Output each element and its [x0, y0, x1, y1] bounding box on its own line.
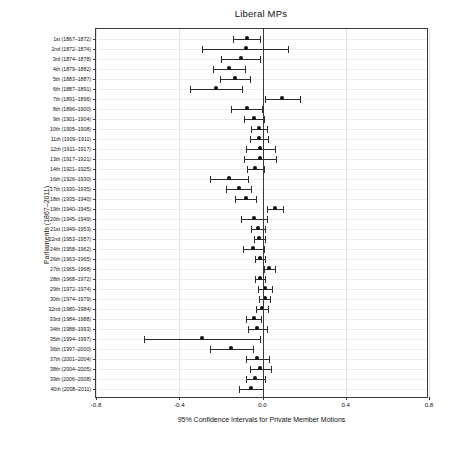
y-axis-tick-label: 3rd (1874–1878) [53, 56, 91, 62]
y-axis-tick [93, 309, 96, 310]
y-axis-tick-label: 1st (1867–1872) [53, 36, 91, 42]
ci-cap-upper [300, 96, 301, 103]
estimate-point-marker [273, 206, 277, 210]
ci-cap-lower [247, 166, 248, 173]
y-axis-tick [93, 69, 96, 70]
x-axis-tick-label: 0.8 [425, 401, 434, 408]
data-row [96, 135, 427, 144]
ci-cap-upper [265, 376, 266, 383]
data-row [96, 335, 427, 344]
y-axis-tick-label: 2nd (1872–1874) [51, 46, 91, 52]
y-axis-tick-label: 27th (1965–1968) [50, 266, 91, 272]
data-row [96, 225, 427, 234]
ci-cap-upper [253, 346, 254, 353]
ci-cap-upper [268, 306, 269, 313]
data-row [96, 155, 427, 164]
ci-cap-upper [264, 246, 265, 253]
grid-line-vertical [429, 29, 430, 397]
chart-title: Liberal MPs [0, 8, 456, 19]
y-axis-tick-label: 10th (1905–1908) [50, 126, 91, 132]
y-axis-tick [93, 79, 96, 80]
estimate-point-marker [258, 256, 262, 260]
ci-cap-upper [275, 146, 276, 153]
ci-cap-lower [244, 156, 245, 163]
ci-cap-lower [246, 146, 247, 153]
y-axis-tick [93, 239, 96, 240]
y-axis-tick [93, 59, 96, 60]
ci-cap-upper [276, 156, 277, 163]
data-row [96, 325, 427, 334]
y-axis-tick [93, 209, 96, 210]
ci-cap-lower [241, 216, 242, 223]
y-axis-tick-label: 16th (1926–1930) [50, 176, 91, 182]
data-row [96, 215, 427, 224]
data-row [96, 95, 427, 104]
data-row [96, 345, 427, 354]
data-row [96, 145, 427, 154]
y-axis-tick [93, 349, 96, 350]
data-row [96, 365, 427, 374]
y-axis-tick-label: 12th (1911–1917) [50, 146, 91, 152]
y-axis-tick-label: 6th (1887–1891) [53, 86, 91, 92]
x-axis-title: 95% Confidence Intervals for Private Mem… [95, 416, 428, 423]
ci-cap-upper [242, 86, 243, 93]
data-row [96, 185, 427, 194]
estimate-point-marker [227, 66, 231, 70]
y-axis-tick-label: 37th (2001–2004) [50, 356, 91, 362]
y-axis-tick-label: 11th (1909–1911) [51, 136, 91, 142]
y-axis-tick-label: 28th (1968–1972) [50, 276, 91, 282]
chart-canvas: Liberal MPs Parliaments (1867–2011) 1st … [0, 0, 456, 450]
y-axis-tick-label: 18th (1935–1940) [50, 196, 91, 202]
ci-cap-lower [267, 206, 268, 213]
y-axis-title: Parliaments (1867–2011) [43, 186, 50, 264]
y-axis-tick-label: 4th (1879–1882) [53, 66, 91, 72]
ci-cap-upper [265, 256, 266, 263]
y-axis-tick [93, 219, 96, 220]
ci-cap-lower [190, 86, 191, 93]
y-axis-tick-label: 33rd (1984–1988) [50, 316, 91, 322]
estimate-point-marker [244, 46, 248, 50]
estimate-point-marker [245, 36, 249, 40]
y-axis-tick-label: 40th (2008–2011) [50, 386, 91, 392]
zero-reference-line [263, 29, 264, 397]
data-row [96, 355, 427, 364]
ci-cap-lower [202, 46, 203, 53]
ci-cap-lower [254, 236, 255, 243]
data-row [96, 175, 427, 184]
x-axis-tick [263, 397, 264, 400]
ci-cap-lower [256, 306, 257, 313]
y-axis-tick-label: 36th (1997–2000) [50, 346, 91, 352]
y-axis-tick [93, 389, 96, 390]
ci-cap-lower [255, 276, 256, 283]
ci-cap-lower [210, 346, 211, 353]
y-axis-tick [93, 49, 96, 50]
ci-cap-upper [275, 266, 276, 273]
data-row [96, 35, 427, 44]
estimate-point-marker [258, 276, 262, 280]
y-axis-tick-label: 14th (1921–1925) [50, 166, 91, 172]
ci-cap-upper [265, 236, 266, 243]
data-row [96, 315, 427, 324]
y-axis-tick-label: 5th (1883–1887) [53, 76, 91, 82]
data-row [96, 375, 427, 384]
y-axis-tick [93, 99, 96, 100]
ci-cap-upper [264, 116, 265, 123]
y-axis-tick [93, 189, 96, 190]
ci-cap-lower [239, 386, 240, 393]
data-row [96, 125, 427, 134]
ci-cap-lower [246, 376, 247, 383]
ci-cap-lower [246, 356, 247, 363]
data-row [96, 285, 427, 294]
ci-cap-upper [248, 176, 249, 183]
estimate-point-marker [280, 96, 284, 100]
ci-cap-lower [243, 246, 244, 253]
data-row [96, 235, 427, 244]
data-row [96, 85, 427, 94]
x-axis-tick-label: -0.8 [91, 401, 102, 408]
ci-cap-upper [270, 296, 271, 303]
data-row [96, 245, 427, 254]
ci-cap-upper [272, 286, 273, 293]
estimate-point-marker [233, 76, 237, 80]
y-axis-tick [93, 89, 96, 90]
y-axis-tick [93, 129, 96, 130]
